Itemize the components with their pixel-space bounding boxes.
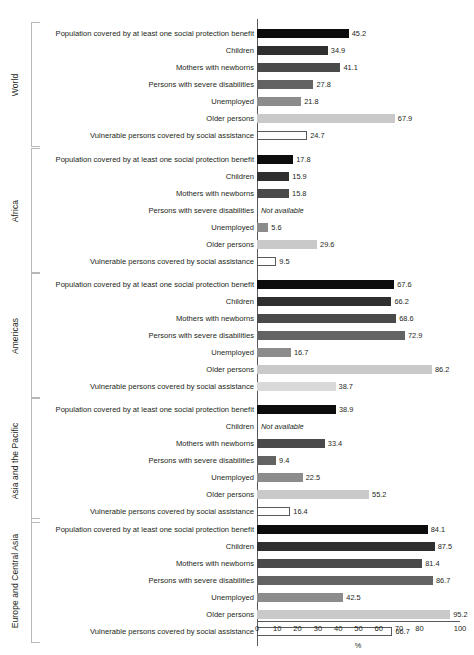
bar-value-label: 67.6 bbox=[397, 280, 411, 290]
bar-value-label: 72.9 bbox=[408, 331, 422, 341]
chart-row: Unemployed21.8 bbox=[40, 93, 474, 110]
bar-area: 16.7 bbox=[257, 344, 474, 361]
x-axis-tick-label: 50 bbox=[354, 624, 362, 633]
indicator-rows: Population covered by at least one socia… bbox=[40, 25, 474, 144]
chart-row: Unemployed16.7 bbox=[40, 344, 474, 361]
x-axis-tick-label: 30 bbox=[314, 624, 322, 633]
x-axis-tick-label: 80 bbox=[415, 624, 423, 633]
bar-value-label: 45.2 bbox=[352, 29, 366, 39]
data-bar bbox=[257, 439, 325, 448]
x-axis-tick-label: 20 bbox=[293, 624, 301, 633]
bar-area: 22.5 bbox=[257, 469, 474, 486]
bar-value-label: 24.7 bbox=[310, 131, 324, 141]
chart-row: Population covered by at least one socia… bbox=[40, 521, 474, 538]
bar-area: 45.2 bbox=[257, 25, 474, 42]
data-bar bbox=[257, 29, 349, 38]
data-bar bbox=[257, 280, 394, 289]
data-bar bbox=[257, 223, 268, 232]
bar-area: 5.6 bbox=[257, 219, 474, 236]
region-group: Asia and the PacificPopulation covered b… bbox=[0, 398, 474, 523]
bar-area: 66.7 bbox=[257, 623, 474, 640]
chart-row: Population covered by at least one socia… bbox=[40, 25, 474, 42]
data-bar bbox=[257, 63, 340, 72]
bar-value-label: 9.4 bbox=[279, 456, 289, 466]
category-label: Older persons bbox=[0, 236, 257, 253]
category-label: Mothers with newborns bbox=[0, 310, 257, 327]
x-axis-tick-label: 100 bbox=[454, 624, 467, 633]
data-bar bbox=[257, 314, 396, 323]
region-group: AfricaPopulation covered by at least one… bbox=[0, 148, 474, 273]
data-bar bbox=[257, 97, 301, 106]
bar-area: 66.2 bbox=[257, 293, 474, 310]
data-bar bbox=[257, 525, 428, 534]
bar-area: 67.9 bbox=[257, 110, 474, 127]
bar-area: 9.5 bbox=[257, 253, 474, 270]
data-bar bbox=[257, 405, 336, 414]
bar-area: 24.7 bbox=[257, 127, 474, 144]
chart-row: Older persons67.9 bbox=[40, 110, 474, 127]
indicator-rows: Population covered by at least one socia… bbox=[40, 151, 474, 270]
bar-value-label: 34.9 bbox=[331, 46, 345, 56]
category-label: Vulnerable persons covered by social ass… bbox=[0, 378, 257, 395]
chart-row: Older persons29.6 bbox=[40, 236, 474, 253]
category-label: Population covered by at least one socia… bbox=[0, 521, 257, 538]
bar-area: 72.9 bbox=[257, 327, 474, 344]
data-bar bbox=[257, 456, 276, 465]
data-bar bbox=[257, 257, 276, 266]
bar-value-label: 15.9 bbox=[292, 172, 306, 182]
chart-row: Mothers with newborns81.4 bbox=[40, 555, 474, 572]
category-label: Vulnerable persons covered by social ass… bbox=[0, 127, 257, 144]
bar-area: 29.6 bbox=[257, 236, 474, 253]
bar-area: 38.7 bbox=[257, 378, 474, 395]
x-axis-tick-label: 0 bbox=[255, 624, 259, 633]
chart-row: ChildrenNot available bbox=[40, 418, 474, 435]
bar-value-label: 27.8 bbox=[316, 80, 330, 90]
data-bar bbox=[257, 490, 369, 499]
bar-value-label: 29.6 bbox=[320, 240, 334, 250]
data-bar bbox=[257, 172, 289, 181]
data-bar bbox=[257, 576, 433, 585]
bar-area: 15.8 bbox=[257, 185, 474, 202]
category-label: Unemployed bbox=[0, 344, 257, 361]
indicator-rows: Population covered by at least one socia… bbox=[40, 276, 474, 395]
chart-row: Older persons55.2 bbox=[40, 486, 474, 503]
chart-row: Unemployed42.5 bbox=[40, 589, 474, 606]
bar-value-label: 55.2 bbox=[372, 490, 386, 500]
data-bar bbox=[257, 610, 450, 619]
bar-area: 42.5 bbox=[257, 589, 474, 606]
category-label: Unemployed bbox=[0, 589, 257, 606]
category-label: Older persons bbox=[0, 486, 257, 503]
bar-value-label: 86.7 bbox=[436, 576, 450, 586]
data-bar bbox=[257, 593, 343, 602]
chart-row: Population covered by at least one socia… bbox=[40, 276, 474, 293]
chart-row: Persons with severe disabilitiesNot avai… bbox=[40, 202, 474, 219]
bar-value-label: 15.8 bbox=[292, 189, 306, 199]
bar-value-label: 33.4 bbox=[328, 439, 342, 449]
region-group: WorldPopulation covered by at least one … bbox=[0, 22, 474, 147]
data-bar bbox=[257, 365, 432, 374]
data-bar bbox=[257, 331, 405, 340]
category-label: Vulnerable persons covered by social ass… bbox=[0, 623, 257, 640]
chart-row: Vulnerable persons covered by social ass… bbox=[40, 127, 474, 144]
chart-row: Persons with severe disabilities72.9 bbox=[40, 327, 474, 344]
bar-area: 21.8 bbox=[257, 93, 474, 110]
bar-area: 86.2 bbox=[257, 361, 474, 378]
category-label: Persons with severe disabilities bbox=[0, 572, 257, 589]
bar-area: 9.4 bbox=[257, 452, 474, 469]
x-axis-tick-label: 60 bbox=[375, 624, 383, 633]
category-label: Vulnerable persons covered by social ass… bbox=[0, 253, 257, 270]
not-available-text: Not available bbox=[261, 422, 304, 432]
bar-area: 38.9 bbox=[257, 401, 474, 418]
bar-area: 27.8 bbox=[257, 76, 474, 93]
category-label: Unemployed bbox=[0, 469, 257, 486]
bar-area: 34.9 bbox=[257, 42, 474, 59]
bar-area: 68.6 bbox=[257, 310, 474, 327]
category-label: Persons with severe disabilities bbox=[0, 327, 257, 344]
x-axis-tick-label: 40 bbox=[334, 624, 342, 633]
chart-row: Unemployed22.5 bbox=[40, 469, 474, 486]
data-bar bbox=[257, 297, 391, 306]
data-bar bbox=[257, 507, 290, 516]
x-axis-tick-label: 10 bbox=[273, 624, 281, 633]
category-label: Mothers with newborns bbox=[0, 185, 257, 202]
data-bar bbox=[257, 114, 395, 123]
